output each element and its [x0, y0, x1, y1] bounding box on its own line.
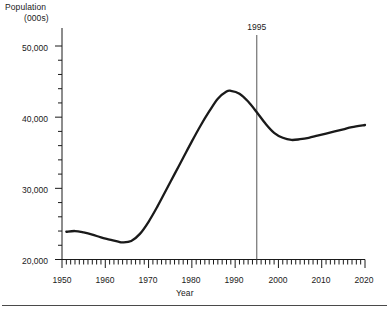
x-axis [62, 260, 365, 269]
x-minor-ticks [66, 260, 360, 265]
population-line-chart: Population (000s) 50,000 40,000 30,000 2… [0, 0, 389, 313]
plot-area [0, 0, 389, 313]
population-series-line [66, 91, 365, 243]
y-major-ticks [55, 46, 62, 260]
footer-rule [2, 305, 387, 306]
y-minor-ticks [58, 60, 62, 245]
y-axis [55, 28, 62, 260]
